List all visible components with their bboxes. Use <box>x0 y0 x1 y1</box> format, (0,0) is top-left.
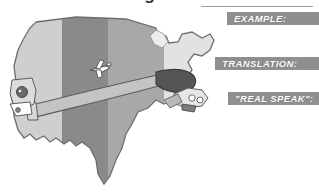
united-states-map-svg <box>6 8 222 192</box>
heading-divider-rule <box>201 6 313 7</box>
page-heading: Lesson 1 • Getting Started <box>0 0 230 7</box>
page-heading-text: Lesson 1 • Getting Started <box>0 0 230 5</box>
west-character-eye <box>19 90 21 92</box>
label-banner-example-text: EXAMPLE: <box>234 12 286 25</box>
map-illustration <box>6 8 222 192</box>
label-banner-example: EXAMPLE: <box>227 12 319 25</box>
label-banner-translation: TRANSLATION: <box>215 57 319 70</box>
label-banner-realspeak: "REAL SPEAK": <box>228 92 319 105</box>
west-character-head <box>17 87 28 98</box>
east-character-knuckle-2 <box>197 97 203 103</box>
label-banner-realspeak-text: "REAL SPEAK": <box>235 92 313 105</box>
east-character-knuckle-1 <box>189 95 195 101</box>
page-canvas: Lesson 1 • Getting Started <box>0 0 319 192</box>
label-banner-translation-text: TRANSLATION: <box>222 57 297 70</box>
west-character-hand <box>16 108 21 113</box>
